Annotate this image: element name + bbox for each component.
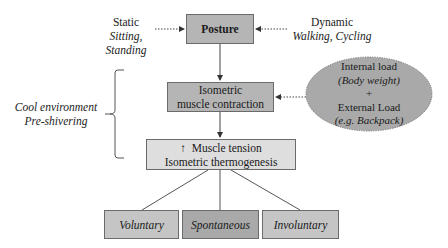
load-line4: External Load bbox=[306, 101, 432, 115]
dynamic-label: Dynamic Walking, Cycling bbox=[290, 15, 374, 43]
outcome-label: Spontaneous bbox=[191, 218, 250, 232]
environment-line2: Pre-shivering bbox=[10, 114, 102, 128]
branch-involuntary bbox=[231, 170, 300, 210]
tension-line2: Isometric thermogenesis bbox=[165, 155, 278, 169]
outcome-label: Voluntary bbox=[119, 218, 164, 232]
tension-line1: Muscle tension bbox=[192, 142, 262, 154]
tension-box: ↑ Muscle tension Isometric thermogenesis bbox=[146, 139, 296, 170]
up-arrow-icon: ↑ bbox=[180, 142, 186, 154]
environment-label: Cool environment Pre-shivering bbox=[10, 100, 102, 128]
isometric-line2: muscle contraction bbox=[177, 97, 264, 111]
environment-line1: Cool environment bbox=[10, 100, 102, 114]
outcome-involuntary: Involuntary bbox=[262, 210, 339, 239]
dynamic-subtitle: Walking, Cycling bbox=[290, 29, 374, 43]
static-title: Static bbox=[88, 15, 164, 29]
dynamic-title: Dynamic bbox=[290, 15, 374, 29]
isometric-line1: Isometric bbox=[199, 83, 242, 97]
posture-box: Posture bbox=[186, 14, 254, 44]
tension-line1-wrap: ↑ Muscle tension bbox=[180, 141, 261, 155]
brace bbox=[105, 70, 124, 158]
static-label: Static Sitting, Standing bbox=[88, 15, 164, 57]
load-line3: + bbox=[306, 87, 432, 101]
isometric-box: Isometric muscle contraction bbox=[167, 82, 274, 112]
load-line1: Internal load bbox=[306, 60, 432, 74]
outcome-voluntary: Voluntary bbox=[104, 210, 179, 239]
outcome-spontaneous: Spontaneous bbox=[182, 210, 259, 239]
load-line5: (e.g. Backpack) bbox=[306, 114, 432, 128]
load-line2: (Body weight) bbox=[306, 74, 432, 88]
branch-voluntary bbox=[142, 170, 208, 210]
posture-label: Posture bbox=[201, 22, 238, 36]
load-text: Internal load (Body weight) + External L… bbox=[306, 60, 432, 128]
outcome-label: Involuntary bbox=[274, 218, 328, 232]
static-subtitle: Sitting, Standing bbox=[88, 29, 164, 57]
